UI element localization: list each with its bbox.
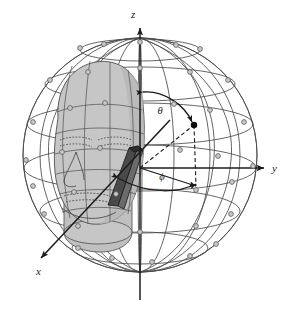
theta-angle-arc [143,92,192,122]
vector-and-projections [140,122,197,186]
theta-label: θ [157,105,162,116]
source-point-marker [191,122,197,128]
spherical-head-diagram: θ ϕ z y x [0,0,291,310]
x-axis-label: x [35,265,41,277]
figure-canvas: θ ϕ z y x [0,0,291,310]
y-axis-label: y [271,162,277,174]
z-axis-label: z [130,8,136,20]
theta-arc-path [143,92,192,122]
azimuth-projection-line [140,168,196,186]
projection-drop-dashed [194,125,196,186]
phi-label: ϕ [159,171,165,182]
